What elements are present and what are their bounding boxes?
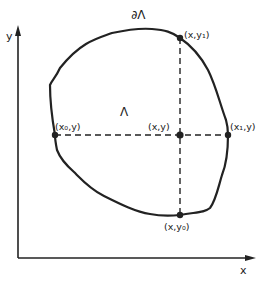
boundary-label: ∂Λ	[131, 8, 146, 22]
y-axis-label: y	[6, 30, 13, 43]
axes: y x	[6, 25, 256, 277]
point-top	[177, 35, 183, 41]
point-center	[176, 131, 183, 138]
point-right-label: (x₁,y)	[230, 121, 256, 132]
interior-label: Λ	[120, 105, 129, 119]
point-bottom	[177, 212, 183, 218]
x-axis-label: x	[240, 264, 247, 277]
x-axis-arrow-icon	[245, 255, 256, 261]
point-top-label: (x,y₁)	[184, 29, 210, 40]
region-diagram: y x ∂Λ Λ (x₀,y) (x,y) (x₁,y) (x,y₁) (x,y…	[0, 0, 265, 284]
point-bottom-label: (x,y₀)	[164, 221, 190, 232]
y-axis-arrow-icon	[15, 25, 21, 36]
point-left-label: (x₀,y)	[55, 121, 81, 132]
point-center-label: (x,y)	[148, 121, 170, 132]
point-right	[225, 132, 231, 138]
point-left	[52, 132, 58, 138]
